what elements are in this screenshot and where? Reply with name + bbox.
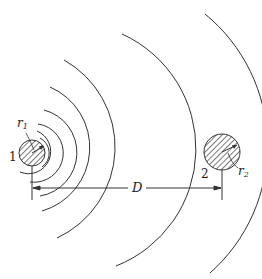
conductor-2 xyxy=(204,134,240,170)
conductor-1-label: 1 xyxy=(9,151,17,163)
diagram-canvas xyxy=(0,0,262,279)
conductor-2-label: 2 xyxy=(201,168,209,180)
flux-arc-4 xyxy=(40,110,77,196)
conductor-1 xyxy=(19,133,45,166)
radius-2-label: r2 xyxy=(238,165,249,179)
flux-arc-6 xyxy=(57,60,115,238)
radius-1-label: r1 xyxy=(17,117,28,131)
distance-D-label: D xyxy=(132,181,142,194)
flux-arc-7 xyxy=(116,34,196,266)
